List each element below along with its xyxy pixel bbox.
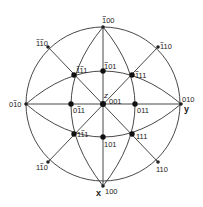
pole-0m10 <box>24 102 28 106</box>
label-m111: 111 <box>135 71 146 80</box>
great-circle-right-ellipse <box>103 27 135 186</box>
label-011: 011 <box>137 106 149 115</box>
label-1m10: 110 <box>36 163 48 172</box>
pole-110 <box>156 160 160 164</box>
label-m100: 100 <box>102 16 115 25</box>
label-001: 001 <box>109 97 122 106</box>
label-m110: 110 <box>160 42 172 51</box>
label-0m11: 011 <box>73 106 85 115</box>
great-circle-lower-ellipse <box>26 104 181 137</box>
label-0m10: 010 <box>9 100 22 109</box>
pole-labels: z 001 x 100 100 010 y 010 011 011 101 10… <box>9 16 195 198</box>
pole-111 <box>129 131 134 136</box>
pole-101 <box>100 134 105 139</box>
label-100: 100 <box>105 187 118 196</box>
pole-m100 <box>101 25 105 29</box>
label-101: 101 <box>104 140 117 149</box>
label-m1m11: 111 <box>76 66 87 75</box>
projection-svg: z 001 x 100 100 010 y 010 011 011 101 10… <box>0 0 203 207</box>
pole-001 <box>100 101 106 107</box>
label-111: 111 <box>136 132 147 141</box>
label-y-axis: y <box>184 104 189 114</box>
label-m101: 101 <box>104 62 117 71</box>
label-z-axis: z <box>103 91 108 100</box>
label-x-axis: x <box>96 188 101 198</box>
label-010: 010 <box>182 95 195 104</box>
pole-1m11 <box>71 131 76 136</box>
label-1m11: 111 <box>77 130 88 139</box>
label-m1m10: 110 <box>36 39 48 48</box>
pole-m111 <box>129 72 134 77</box>
label-110: 110 <box>156 165 168 174</box>
stereographic-projection-diagram: z 001 x 100 100 010 y 010 011 011 101 10… <box>0 0 203 207</box>
